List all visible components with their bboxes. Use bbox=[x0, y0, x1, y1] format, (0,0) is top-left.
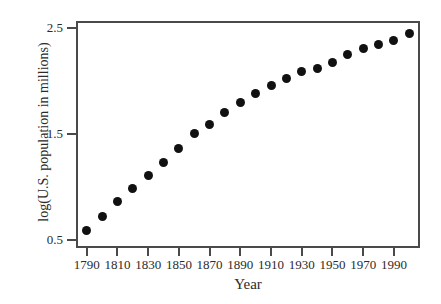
data-point bbox=[282, 74, 291, 83]
x-tick-mark bbox=[147, 248, 149, 256]
x-tick-mark bbox=[239, 248, 241, 256]
x-tick-mark bbox=[178, 248, 180, 256]
x-tick-mark bbox=[393, 248, 395, 256]
data-point bbox=[82, 226, 91, 235]
x-axis-label: Year bbox=[76, 276, 420, 293]
x-tick-mark bbox=[116, 248, 118, 256]
data-point bbox=[328, 58, 337, 67]
data-point bbox=[297, 67, 306, 76]
data-point bbox=[113, 197, 122, 206]
x-tick-mark bbox=[331, 248, 333, 256]
data-point bbox=[267, 81, 276, 90]
x-tick-mark bbox=[270, 248, 272, 256]
x-tick-label: 1990 bbox=[374, 258, 414, 272]
data-point bbox=[174, 144, 183, 153]
plot-area bbox=[76, 21, 420, 248]
data-point bbox=[389, 36, 398, 45]
y-tick-mark bbox=[67, 27, 76, 29]
x-tick-mark bbox=[86, 248, 88, 256]
data-point bbox=[159, 158, 168, 167]
data-point bbox=[236, 98, 245, 107]
y-axis-label: log(U.S. population in millions) bbox=[36, 12, 52, 252]
chart-figure: 0.51.52.5 179018101830185018701890191019… bbox=[0, 0, 441, 304]
data-point bbox=[190, 129, 199, 138]
data-point bbox=[359, 44, 368, 53]
data-point bbox=[98, 212, 107, 221]
x-tick-mark bbox=[362, 248, 364, 256]
x-tick-mark bbox=[209, 248, 211, 256]
x-tick-mark bbox=[301, 248, 303, 256]
data-point bbox=[220, 108, 229, 117]
data-point bbox=[405, 29, 414, 38]
data-point bbox=[251, 89, 260, 98]
y-tick-mark bbox=[67, 133, 76, 135]
data-point bbox=[374, 40, 383, 49]
data-point bbox=[128, 184, 137, 193]
data-point bbox=[343, 50, 352, 59]
data-point bbox=[144, 171, 153, 180]
data-point bbox=[205, 120, 214, 129]
y-tick-mark bbox=[67, 239, 76, 241]
data-point bbox=[313, 64, 322, 73]
